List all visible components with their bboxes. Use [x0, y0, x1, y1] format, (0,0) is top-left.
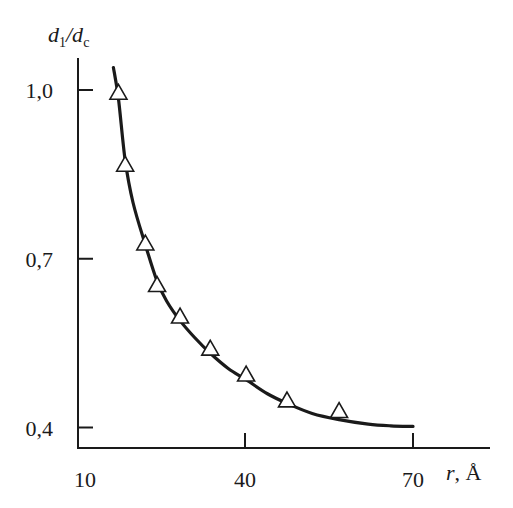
triangle-marker: [331, 403, 348, 418]
triangle-marker: [238, 366, 255, 381]
y-ticks: 0,40,71,0: [26, 78, 94, 441]
fitted-curve: [113, 68, 413, 427]
x-tick-label: 10: [74, 467, 96, 492]
triangle-marker: [149, 277, 166, 292]
x-tick-label: 40: [234, 467, 256, 492]
triangle-marker: [110, 84, 127, 99]
y-axis-label: d1/dc: [48, 22, 89, 50]
triangle-marker: [117, 156, 134, 171]
y-tick-label: 0,4: [26, 416, 54, 441]
x-axis-label: r, Å: [446, 460, 482, 485]
x-tick-label: 70: [402, 467, 424, 492]
y-tick-label: 0,7: [26, 247, 54, 272]
y-tick-label: 1,0: [26, 78, 54, 103]
triangle-marker: [137, 235, 154, 250]
x-ticks: 104070: [74, 433, 424, 492]
chart: 0,40,71,0 104070 d1/dc r, Å: [0, 0, 513, 508]
